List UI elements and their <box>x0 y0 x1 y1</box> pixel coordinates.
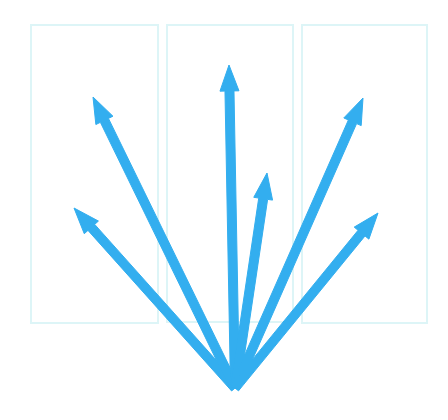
diagram-canvas <box>0 0 448 420</box>
arrow-burst-diagram <box>0 0 448 420</box>
